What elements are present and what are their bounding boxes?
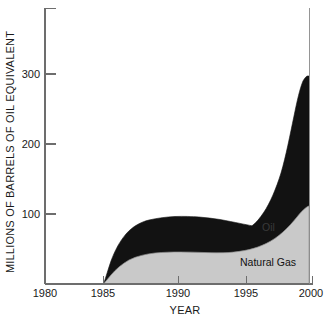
x-tick-label-1985: 1985 bbox=[91, 287, 115, 299]
x-tick-label-1995: 1995 bbox=[234, 287, 258, 299]
chart-canvas: Oil Natural Gas 300 20 bbox=[0, 0, 324, 319]
y-tick-label-200: 200 bbox=[22, 138, 40, 150]
x-tick-label-2000: 2000 bbox=[299, 287, 323, 299]
series-label-oil: Oil bbox=[262, 221, 275, 233]
y-tick-label-100: 100 bbox=[22, 208, 40, 220]
series-label-natural-gas: Natural Gas bbox=[240, 256, 296, 268]
area-chart: Oil Natural Gas 300 20 bbox=[0, 0, 324, 319]
x-axis-title: YEAR bbox=[170, 304, 201, 316]
x-tick-label-1980: 1980 bbox=[33, 287, 57, 299]
x-tick-label-1990: 1990 bbox=[166, 287, 190, 299]
y-tick-label-300: 300 bbox=[22, 68, 40, 80]
y-axis-title: MILLIONS OF BARRELS OF OIL EQUIVALENT bbox=[4, 31, 16, 273]
